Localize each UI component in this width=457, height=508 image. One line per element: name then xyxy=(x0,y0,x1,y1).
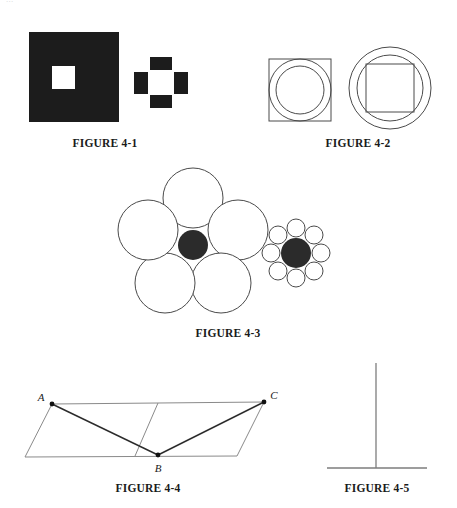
vertex-label-b: B xyxy=(155,462,162,474)
left-surround-circle xyxy=(191,253,251,313)
left-surround-circle xyxy=(208,200,268,260)
figure-4-1-caption: FIGURE 4-1 xyxy=(45,137,165,149)
vertex-label-c: C xyxy=(270,389,278,401)
vertex-dot-c xyxy=(262,400,267,405)
figure-4-5-caption: FIGURE 4-5 xyxy=(317,482,437,494)
right-inscribed-square xyxy=(366,64,414,112)
right-surround-circle xyxy=(305,262,323,280)
left-surround-circle xyxy=(118,200,178,260)
left-surround-circle xyxy=(135,253,195,313)
left-center-circle xyxy=(178,230,208,260)
right-surround-circle xyxy=(269,226,287,244)
right-center-circle xyxy=(281,238,311,268)
vertex-dot-b xyxy=(156,453,161,458)
right-surround-circle xyxy=(262,244,280,262)
figure-4-3-caption: FIGURE 4-3 xyxy=(168,327,288,339)
figure-plate-page: ... FIGURE 4-1 FIGURE 4-2 xyxy=(0,0,457,508)
left-outer-circle xyxy=(269,59,331,121)
figure-4-2-caption: FIGURE 4-2 xyxy=(298,137,418,149)
figure-4-2-graphic xyxy=(0,0,457,130)
figure-4-4-graphic: A B C xyxy=(0,385,300,480)
vertex-dot-a xyxy=(50,402,55,407)
right-surround-circle xyxy=(287,219,305,237)
figure-4-5 xyxy=(300,355,457,480)
figure-4-3 xyxy=(0,185,457,325)
segment-a-b xyxy=(52,404,158,455)
right-surround-circle xyxy=(269,262,287,280)
figure-4-2 xyxy=(0,0,457,130)
figure-4-4: A B C xyxy=(0,385,300,480)
right-surround-circle xyxy=(312,244,330,262)
left-inner-circle xyxy=(276,66,324,114)
right-surround-circle xyxy=(305,226,323,244)
right-outer-circle xyxy=(349,47,431,129)
figure-4-3-graphic xyxy=(0,185,457,325)
right-inner-circle xyxy=(357,55,423,121)
figure-4-5-graphic xyxy=(300,355,457,480)
figure-4-4-caption: FIGURE 4-4 xyxy=(88,482,208,494)
right-surround-circle xyxy=(287,269,305,287)
parallelogram-inner-divider xyxy=(135,403,158,456)
vertex-label-a: A xyxy=(37,391,45,403)
segment-b-c xyxy=(158,402,264,455)
